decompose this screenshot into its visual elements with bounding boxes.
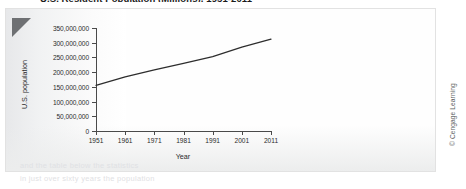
chart-plot-area: 050,000,000100,000,000150,000,000200,000… [6,9,437,173]
series-line-us-population [96,39,271,85]
page-corner-fold-icon [12,18,31,37]
x-axis-title: Year [176,152,191,161]
figure-page: U.S. Resident Population (Millions), 195… [0,0,466,189]
bleed-through-text-line2: in just over sixty years the population [20,174,155,183]
figure-title-clipped: U.S. Resident Population (Millions), 195… [40,0,300,2]
y-axis-title: U.S. population [20,60,29,109]
figure-card: and the table below the statistics in ju… [5,8,436,172]
copyright-notice: © Cengage Learning [449,83,456,146]
chart-series-layer [6,9,437,173]
